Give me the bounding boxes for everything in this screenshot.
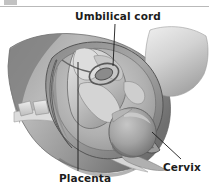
label-cervix: Cervix: [163, 162, 201, 173]
fetus-in-utero-illustration: [0, 0, 209, 187]
figure-container: Umbilical cord Placenta Cervix: [0, 0, 209, 187]
label-placenta: Placenta: [59, 173, 111, 184]
label-umbilical-cord: Umbilical cord: [75, 11, 161, 22]
vertebra: [33, 100, 49, 115]
vertebra: [18, 101, 33, 116]
